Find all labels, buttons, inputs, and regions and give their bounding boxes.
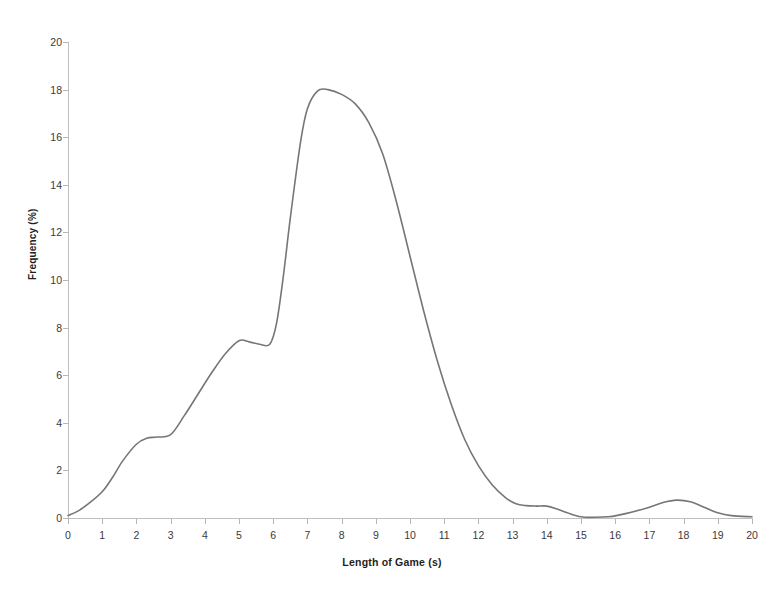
x-tick-label: 14 <box>541 529 553 541</box>
y-tick-label: 16 <box>38 131 62 143</box>
x-tick-mark <box>376 519 377 524</box>
x-tick-mark <box>478 519 479 524</box>
y-tick-label: 4 <box>38 417 62 429</box>
chart-figure: 01234567891011121314151617181920 0246810… <box>0 0 784 591</box>
x-tick-mark <box>102 519 103 524</box>
x-tick-mark <box>513 519 514 524</box>
x-tick-mark <box>307 519 308 524</box>
y-tick-label: 0 <box>38 512 62 524</box>
y-tick-mark <box>63 518 68 519</box>
x-tick-label: 6 <box>270 529 276 541</box>
x-tick-label: 7 <box>304 529 310 541</box>
x-tick-label: 18 <box>678 529 690 541</box>
x-tick-label: 9 <box>373 529 379 541</box>
x-tick-mark <box>342 519 343 524</box>
x-tick-mark <box>649 519 650 524</box>
x-tick-mark <box>239 519 240 524</box>
x-tick-mark <box>547 519 548 524</box>
x-tick-mark <box>684 519 685 524</box>
x-tick-mark <box>581 519 582 524</box>
x-tick-mark <box>718 519 719 524</box>
x-tick-label: 13 <box>507 529 519 541</box>
x-tick-mark <box>410 519 411 524</box>
x-tick-mark <box>68 519 69 524</box>
x-tick-label: 11 <box>439 529 450 541</box>
x-tick-label: 1 <box>99 529 105 541</box>
x-tick-mark <box>171 519 172 524</box>
y-tick-label: 10 <box>38 274 62 286</box>
x-tick-label: 20 <box>746 529 758 541</box>
x-tick-label: 0 <box>65 529 71 541</box>
x-tick-label: 17 <box>644 529 656 541</box>
x-axis-title: Length of Game (s) <box>0 556 784 568</box>
y-tick-label: 18 <box>38 84 62 96</box>
x-tick-label: 16 <box>609 529 621 541</box>
x-tick-mark <box>444 519 445 524</box>
x-tick-mark <box>615 519 616 524</box>
y-tick-label: 2 <box>38 464 62 476</box>
frequency-curve-path <box>68 89 752 518</box>
y-tick-label: 6 <box>38 369 62 381</box>
y-tick-label: 8 <box>38 322 62 334</box>
frequency-curve <box>68 42 752 518</box>
y-tick-label: 20 <box>38 36 62 48</box>
x-tick-label: 3 <box>168 529 174 541</box>
x-tick-label: 12 <box>473 529 485 541</box>
x-tick-mark <box>752 519 753 524</box>
x-tick-label: 2 <box>133 529 139 541</box>
x-tick-label: 5 <box>236 529 242 541</box>
y-tick-label: 14 <box>38 179 62 191</box>
x-tick-label: 8 <box>339 529 345 541</box>
plot-area <box>68 42 752 518</box>
x-tick-mark <box>136 519 137 524</box>
y-tick-label: 12 <box>38 226 62 238</box>
x-tick-mark <box>273 519 274 524</box>
x-tick-label: 19 <box>712 529 724 541</box>
x-tick-label: 4 <box>202 529 208 541</box>
x-tick-label: 10 <box>404 529 416 541</box>
x-tick-label: 15 <box>575 529 587 541</box>
y-axis-title: Frequency (%) <box>27 208 38 280</box>
x-tick-mark <box>205 519 206 524</box>
